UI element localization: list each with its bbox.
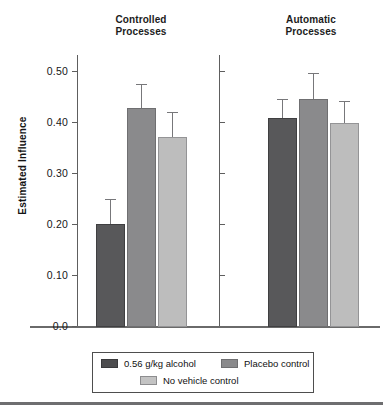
divider-tick-050 (220, 71, 225, 72)
figure-bar-chart: Controlled Processes Automatic Processes… (0, 0, 383, 410)
y-tick-label-050: 0.50 (24, 65, 68, 77)
bar-automatic-placebo (299, 99, 328, 327)
bar-automatic-novehicle (330, 123, 359, 327)
legend-item-alcohol: 0.56 g/kg alcohol (101, 358, 196, 369)
errorcap-controlled-placebo (136, 84, 147, 85)
bar-automatic-alcohol (268, 118, 297, 327)
errorcap-automatic-alcohol (277, 99, 288, 100)
y-tick-050 (72, 71, 77, 72)
y-tick-label-020: 0.20 (24, 218, 68, 230)
y-axis-title: Estimated Influence (17, 96, 28, 236)
errorcap-automatic-placebo (308, 73, 319, 74)
page-bottom-rule (0, 402, 383, 405)
errorbar-automatic-novehicle (344, 101, 345, 123)
legend-label-placebo: Placebo control (244, 358, 309, 369)
bar-controlled-placebo (127, 108, 156, 327)
bar-controlled-novehicle (158, 137, 187, 327)
errorbar-controlled-novehicle (172, 112, 173, 137)
legend-swatch-alcohol (101, 359, 118, 368)
y-tick-label-040: 0.40 (24, 116, 68, 128)
y-tick-000 (72, 326, 77, 327)
legend-swatch-novehicle (140, 376, 157, 385)
y-axis-line (77, 55, 78, 327)
y-tick-040 (72, 122, 77, 123)
errorcap-automatic-novehicle (339, 101, 350, 102)
errorbar-controlled-placebo (141, 84, 142, 108)
errorcap-controlled-novehicle (167, 112, 178, 113)
legend-label-alcohol: 0.56 g/kg alcohol (124, 358, 196, 369)
y-tick-label-010: 0.10 (24, 269, 68, 281)
y-tick-label-000: 0.0 (24, 320, 68, 332)
divider-tick-010 (220, 275, 225, 276)
legend-label-novehicle: No vehicle control (163, 375, 239, 386)
legend-swatch-placebo (221, 359, 238, 368)
y-tick-030 (72, 173, 77, 174)
legend-item-placebo: Placebo control (221, 358, 309, 369)
y-tick-010 (72, 275, 77, 276)
legend-item-novehicle: No vehicle control (140, 375, 239, 386)
errorbar-controlled-alcohol (110, 199, 111, 224)
y-tick-020 (72, 224, 77, 225)
errorbar-automatic-placebo (313, 73, 314, 99)
y-tick-label-030: 0.30 (24, 167, 68, 179)
group-divider-axis-line (219, 55, 220, 327)
divider-tick-030 (220, 173, 225, 174)
divider-tick-040 (220, 122, 225, 123)
plot-area: 0.50 0.40 0.30 0.20 0.10 0.0 Estimated I… (0, 0, 383, 410)
divider-tick-020 (220, 224, 225, 225)
errorcap-controlled-alcohol (105, 199, 116, 200)
chart-legend: 0.56 g/kg alcohol Placebo control No veh… (92, 352, 314, 393)
bar-controlled-alcohol (96, 224, 125, 327)
errorbar-automatic-alcohol (282, 99, 283, 118)
